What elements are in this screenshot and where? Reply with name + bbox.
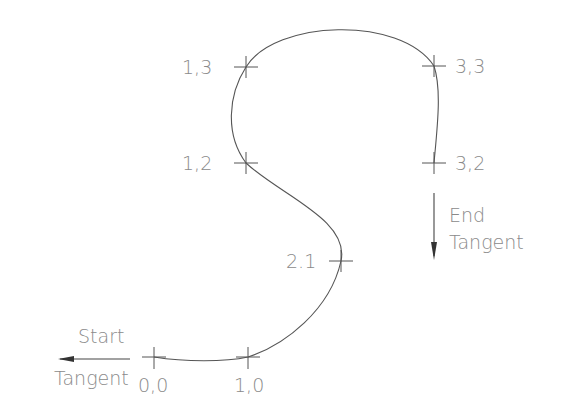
point-marker-3-3 (422, 55, 446, 77)
point-marker-2-1 (329, 250, 353, 272)
end-tangent-arrow-icon (431, 193, 437, 260)
point-label-2-1: 2.1 (286, 250, 316, 272)
start-tangent-arrow-icon (58, 356, 130, 362)
point-label-0-0: 0,0 (138, 374, 168, 396)
point-marker-3-2 (422, 152, 446, 174)
point-label-1-2: 1,2 (182, 152, 212, 174)
point-label-3-3: 3,3 (455, 55, 485, 77)
spline-curve (154, 30, 438, 361)
point-label-1-0: 1,0 (234, 374, 264, 396)
point-label-1-3: 1,3 (182, 56, 212, 78)
start-tangent-label-line1: Start (78, 325, 124, 347)
end-tangent-label-line1: End (449, 204, 485, 226)
point-marker-1-3 (234, 56, 258, 78)
spline-diagram: 0,0 1,0 2.1 1,2 1,3 3,3 3,2 Start Tangen… (0, 0, 567, 415)
point-label-3-2: 3,2 (455, 152, 485, 174)
end-tangent-label-line2: Tangent (449, 231, 524, 253)
start-tangent-label-line2: Tangent (54, 367, 129, 389)
